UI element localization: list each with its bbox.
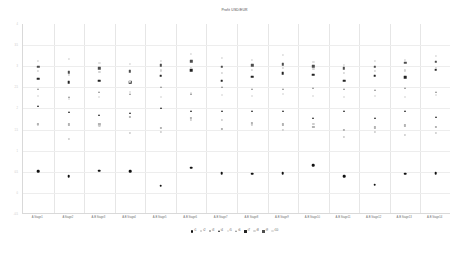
gridline-vertical	[145, 24, 146, 213]
gridline-vertical	[84, 24, 85, 213]
data-point	[98, 91, 100, 93]
legend-item-label: t8	[257, 230, 259, 233]
data-point	[129, 112, 131, 114]
x-axis-tick-label: A-B Stage9	[275, 216, 289, 219]
data-point	[282, 93, 284, 95]
data-point	[404, 76, 407, 79]
legend-marker-icon	[218, 230, 220, 232]
x-axis-tick-label: A-B Stage14	[427, 216, 442, 219]
gridline-horizontal	[23, 66, 450, 67]
data-point	[374, 89, 376, 91]
data-point	[129, 170, 132, 173]
data-point	[251, 59, 253, 61]
data-point	[98, 96, 100, 98]
data-point	[190, 60, 192, 62]
data-point	[374, 95, 376, 97]
x-axis: A Stage1A Stage2A-B Stage3A-B Stage4A-B …	[22, 216, 450, 228]
gridline-vertical	[237, 24, 238, 213]
data-point	[312, 87, 314, 89]
data-point	[129, 70, 131, 72]
legend-item[interactable]: t1	[191, 230, 197, 233]
data-point	[435, 91, 437, 93]
data-point	[129, 116, 131, 118]
data-point	[312, 126, 314, 128]
x-axis-tick-label: A-B Stage10	[305, 216, 320, 219]
data-point	[373, 126, 375, 128]
data-point	[373, 184, 376, 187]
legend-marker-icon	[253, 230, 255, 232]
data-point	[343, 96, 345, 98]
legend-item-label: t4	[221, 230, 223, 233]
gridline-horizontal	[23, 45, 450, 46]
data-point	[282, 63, 284, 65]
data-point	[282, 54, 284, 56]
data-point	[251, 95, 253, 97]
legend-item[interactable]: t10	[271, 230, 278, 233]
data-point	[343, 110, 345, 112]
data-point	[373, 60, 375, 62]
data-point	[68, 123, 70, 125]
legend-item-label: t1	[194, 230, 196, 233]
data-point	[98, 71, 100, 73]
x-axis-tick-label: A-B Stage6	[183, 216, 197, 219]
data-point	[312, 61, 314, 63]
legend-item[interactable]: t6	[235, 230, 240, 233]
data-point	[282, 110, 284, 112]
gridline-vertical	[206, 24, 207, 213]
legend-item[interactable]: t8	[253, 230, 258, 233]
data-point	[98, 67, 100, 69]
data-point	[251, 173, 254, 176]
data-point	[37, 88, 39, 90]
legend-item[interactable]: t2	[200, 230, 205, 233]
data-point	[343, 79, 346, 82]
data-point	[68, 96, 70, 98]
data-point	[404, 87, 406, 89]
gridline-horizontal	[23, 87, 450, 88]
gridline-horizontal	[23, 193, 450, 194]
data-point	[404, 110, 406, 112]
data-point	[68, 81, 71, 84]
gridline-vertical	[115, 24, 116, 213]
data-point	[282, 72, 285, 75]
data-point	[435, 55, 437, 57]
data-point	[343, 88, 345, 90]
data-point	[374, 117, 376, 119]
legend-item-label: t3	[212, 230, 214, 233]
data-point	[435, 132, 437, 134]
data-point	[343, 175, 346, 178]
gridline-vertical	[329, 24, 330, 213]
legend-item[interactable]: t5	[227, 230, 232, 233]
legend-item-label: t10	[275, 230, 279, 233]
legend-item-label: t9	[266, 230, 268, 233]
y-axis-tick-label: 3.5	[4, 44, 18, 47]
y-axis-tick-label: 0.5	[4, 170, 18, 173]
data-point	[221, 110, 223, 112]
data-point	[190, 119, 192, 121]
legend-item[interactable]: t7	[244, 230, 250, 233]
data-point	[373, 131, 375, 133]
data-point	[159, 184, 162, 187]
legend-marker-icon	[262, 230, 264, 232]
data-point	[312, 68, 314, 70]
data-point	[343, 72, 345, 74]
data-point	[98, 114, 100, 116]
data-point	[435, 126, 437, 128]
data-point	[190, 69, 193, 72]
data-point	[68, 98, 70, 100]
y-axis: 43.532.521.510.50-0.5	[0, 0, 22, 254]
x-axis-tick-label: A-B Stage4	[122, 216, 136, 219]
data-point	[251, 110, 253, 112]
data-point	[190, 110, 192, 112]
data-point	[160, 107, 162, 109]
data-point	[68, 74, 70, 76]
legend-item[interactable]: t3	[209, 230, 214, 233]
gridline-vertical	[359, 24, 360, 213]
data-point	[37, 105, 39, 107]
legend-item[interactable]: t4	[218, 230, 223, 233]
data-point	[160, 86, 162, 88]
data-point	[68, 58, 70, 60]
legend-item[interactable]: t9	[262, 230, 268, 233]
data-point	[312, 95, 314, 97]
x-axis-tick-label: A Stage2	[62, 216, 73, 219]
data-point	[98, 62, 100, 64]
